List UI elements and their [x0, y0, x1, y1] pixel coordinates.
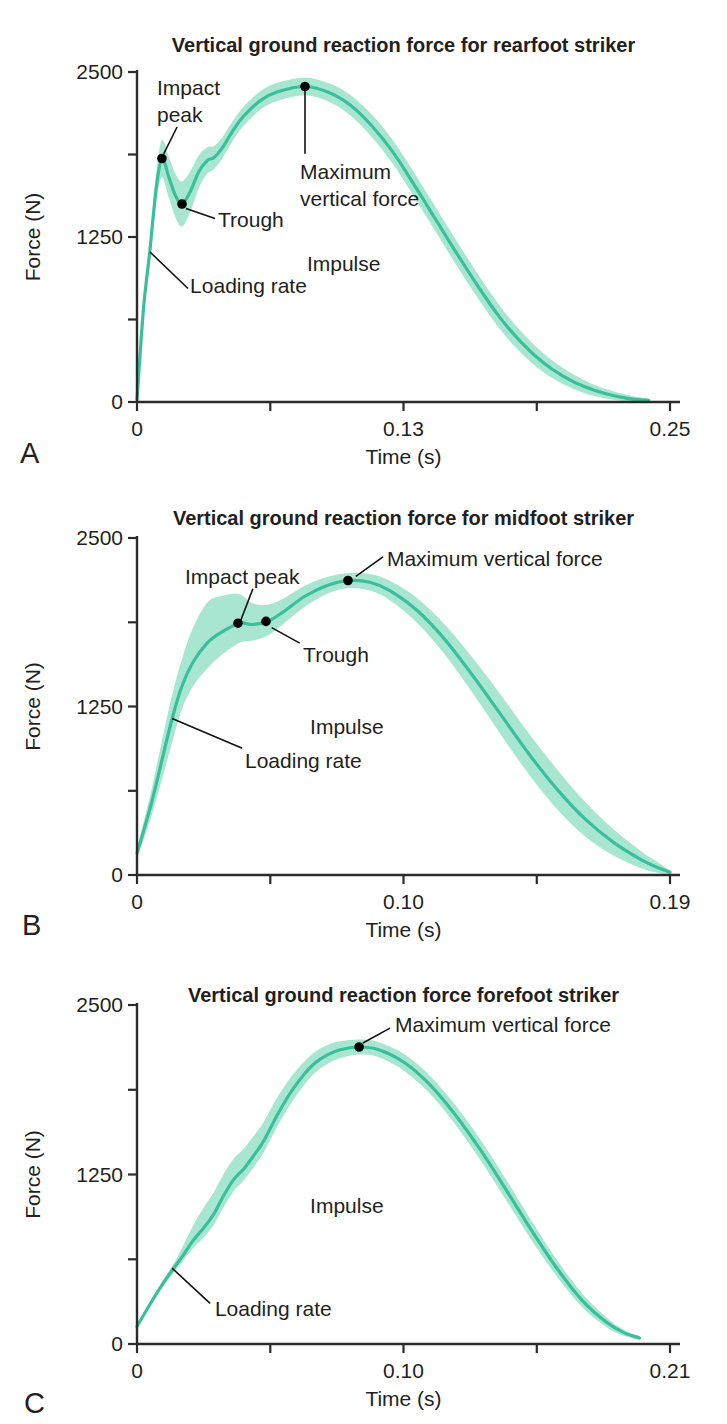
x-tick-label: 0.25: [650, 417, 691, 440]
annotation-label-maximum-vertical-force: Maximum vertical force: [395, 1013, 611, 1036]
annotation-leader-trough: [272, 628, 300, 644]
annotation-label-maximum-vertical-force: vertical force: [300, 187, 419, 210]
annotation-label-maximum-vertical-force: Maximum: [300, 160, 391, 183]
panel-letter: C: [24, 1387, 45, 1419]
annotation-dot-trough: [177, 199, 187, 209]
annotation-label-impulse: Impulse: [307, 252, 381, 275]
annotation-dot-maximum-vertical-force: [354, 1042, 364, 1052]
annotation-label-maximum-vertical-force: Maximum vertical force: [387, 547, 603, 570]
chart-panel-A: Vertical ground reaction force for rearf…: [0, 0, 727, 480]
annotation-label-impact-peak: peak: [157, 103, 203, 126]
y-axis-label: Force (N): [21, 662, 44, 751]
x-tick-label: 0.10: [383, 1359, 424, 1382]
annotation-dot-impact-peak: [157, 154, 167, 164]
annotation-label-impulse: Impulse: [310, 715, 384, 738]
annotation-leader-maximum-vertical-force: [363, 1028, 390, 1043]
x-tick-label: 0: [131, 417, 143, 440]
annotation-dot-maximum-vertical-force: [343, 576, 353, 586]
chart-panel-C: Vertical ground reaction force forefoot …: [0, 955, 727, 1424]
y-tick-label: 1250: [76, 1163, 123, 1186]
y-axis-label: Force (N): [21, 1130, 44, 1219]
annotation-label-loading-rate: Loading rate: [215, 1297, 332, 1320]
panel-letter: B: [22, 909, 41, 941]
y-tick-label: 0: [111, 1332, 123, 1355]
curve-band: [137, 1039, 640, 1339]
chart-rearfoot-striker: Vertical ground reaction force for rearf…: [0, 0, 727, 480]
annotation-label-impact-peak: Impact peak: [185, 565, 300, 588]
y-tick-label: 1250: [76, 225, 123, 248]
y-tick-label: 2500: [76, 60, 123, 83]
annotation-dot-trough: [261, 617, 271, 627]
annotation-leader-loading-rate: [172, 1268, 210, 1303]
y-tick-label: 0: [111, 390, 123, 413]
curve-line: [137, 1047, 640, 1338]
x-tick-label: 0.13: [383, 417, 424, 440]
y-tick-label: 0: [111, 863, 123, 886]
annotation-leader-trough: [186, 209, 215, 219]
x-tick-label: 0.19: [650, 890, 691, 913]
y-axis-label: Force (N): [21, 193, 44, 282]
panel-letter: A: [20, 437, 40, 469]
chart-forefoot-striker: Vertical ground reaction force forefoot …: [0, 955, 727, 1424]
figure-vertical-ground-reaction-forces: Vertical ground reaction force for rearf…: [0, 0, 727, 1424]
x-axis-label: Time (s): [365, 1387, 441, 1410]
y-tick-label: 2500: [76, 526, 123, 549]
annotation-label-loading-rate: Loading rate: [245, 749, 362, 772]
y-tick-label: 2500: [76, 993, 123, 1016]
curve-band: [137, 573, 670, 875]
x-tick-label: 0.10: [383, 890, 424, 913]
curve-line: [137, 86, 649, 400]
chart-title: Vertical ground reaction force forefoot …: [188, 984, 619, 1006]
curve-band: [137, 78, 649, 402]
annotation-label-trough: Trough: [218, 208, 284, 231]
x-tick-label: 0: [131, 1359, 143, 1382]
y-tick-label: 1250: [76, 695, 123, 718]
annotation-leader-loading-rate: [150, 252, 188, 289]
annotation-label-impact-peak: Impact: [157, 76, 220, 99]
annotation-leader-loading-rate: [172, 719, 242, 749]
chart-panel-B: Vertical ground reaction force for midfo…: [0, 480, 727, 955]
annotation-leader-maximum-vertical-force: [356, 557, 383, 577]
chart-title: Vertical ground reaction force for rearf…: [172, 34, 636, 56]
chart-title: Vertical ground reaction force for midfo…: [173, 507, 634, 529]
annotation-label-loading-rate: Loading rate: [190, 274, 307, 297]
x-axis-label: Time (s): [365, 918, 441, 941]
annotation-label-trough: Trough: [303, 643, 369, 666]
chart-midfoot-striker: Vertical ground reaction force for midfo…: [0, 480, 727, 955]
x-tick-label: 0: [131, 890, 143, 913]
annotation-dot-impact-peak: [233, 618, 243, 628]
x-axis-label: Time (s): [365, 445, 441, 468]
annotation-dot-maximum-vertical-force: [300, 82, 310, 92]
annotation-label-impulse: Impulse: [310, 1194, 384, 1217]
x-tick-label: 0.21: [650, 1359, 691, 1382]
annotation-leader-impact-peak: [164, 127, 177, 154]
